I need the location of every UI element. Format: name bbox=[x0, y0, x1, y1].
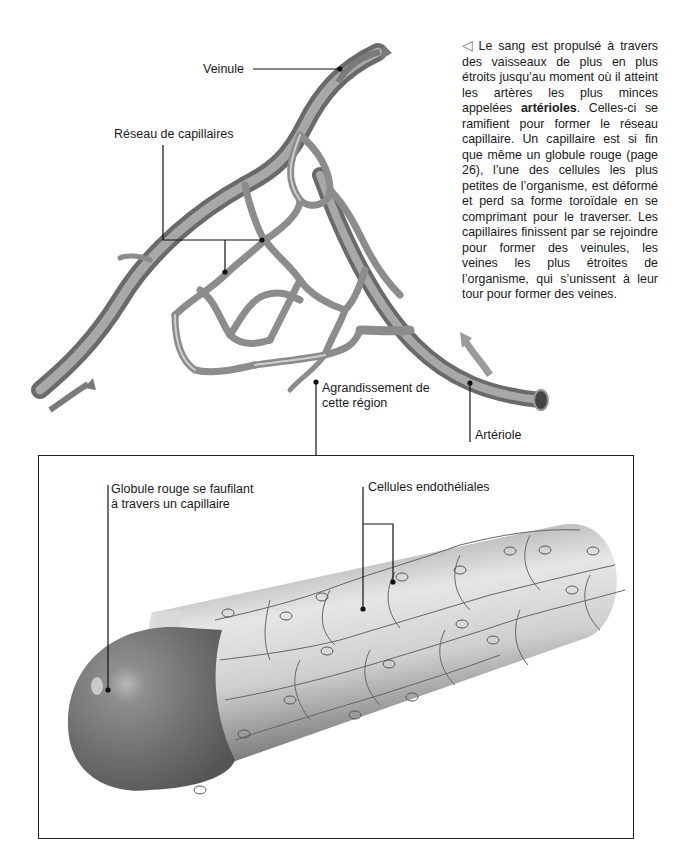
label-red-cell-line1: Globule rouge se faufilant bbox=[111, 482, 253, 497]
label-capillary-network: Réseau de capillaires bbox=[114, 127, 234, 142]
label-endothelial-cells: Cellules endothéliales bbox=[368, 480, 490, 495]
flow-arrow-arteriole-icon bbox=[460, 332, 490, 375]
caption-text: ◁Le sang est propulsé à travers des vais… bbox=[462, 38, 658, 303]
enlargement-inset-frame bbox=[38, 455, 634, 839]
label-veinule: Veinule bbox=[203, 62, 244, 77]
label-arteriole: Artériole bbox=[475, 428, 522, 443]
venule-vessel bbox=[40, 52, 378, 390]
label-red-cell-line2: à travers un capillaire bbox=[111, 497, 230, 512]
caption-bold-term: artérioles bbox=[521, 101, 577, 115]
left-triangle-icon: ◁ bbox=[462, 37, 476, 53]
label-enlargement-line2: cette région bbox=[322, 396, 387, 411]
caption-body-end: . Celles-ci se ramifient pour former le … bbox=[462, 101, 658, 301]
label-enlargement-line1: Agrandissement de bbox=[322, 381, 430, 396]
